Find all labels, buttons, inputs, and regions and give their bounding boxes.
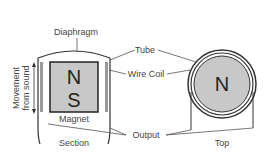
output-label: Output xyxy=(132,130,160,140)
top-pole-n: N xyxy=(215,73,229,95)
magnet-label: Magnet xyxy=(59,114,90,124)
movement-label-line2: from sound xyxy=(21,65,31,110)
output-leader-4 xyxy=(166,128,253,135)
top-view: N Top xyxy=(188,50,256,148)
arrow-head-up-icon xyxy=(32,62,36,67)
arrow-head-down-icon xyxy=(32,109,36,114)
coil-leader-left xyxy=(109,70,126,74)
coil-leader-right xyxy=(167,70,190,74)
tube-leader-right xyxy=(158,50,196,62)
section-view: N S Magnet Section xyxy=(38,51,110,148)
tube-wall-right xyxy=(108,58,110,144)
movement-label-line1: Movement xyxy=(11,67,21,110)
section-pole-s: S xyxy=(67,89,80,111)
top-label: Top xyxy=(215,138,230,148)
wire-coil-label: Wire Coil xyxy=(128,69,165,79)
tube-wall-left xyxy=(38,58,40,144)
diaphragm-label: Diaphragm xyxy=(54,27,98,37)
section-pole-n: N xyxy=(67,66,81,88)
section-label: Section xyxy=(59,138,89,148)
tube-label: Tube xyxy=(135,45,155,55)
movement-annotation: Movement from sound xyxy=(11,62,36,114)
tube-leader-left xyxy=(110,50,135,60)
microphone-diagram: N S Magnet Section Movement from sound D… xyxy=(0,0,268,158)
diaphragm-shape xyxy=(38,51,110,58)
wire-coil-left xyxy=(40,62,43,112)
wire-coil-right xyxy=(105,62,108,112)
